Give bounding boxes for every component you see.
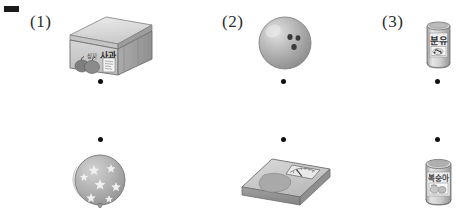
- connector-dot-bottom-3[interactable]: [435, 137, 440, 142]
- svg-text:상자: 상자: [87, 52, 97, 60]
- canned-food-tin-illustration: 복숭아: [419, 155, 459, 211]
- svg-text:복숭아: 복숭아: [428, 173, 449, 183]
- worksheet-canvas: (1): [0, 0, 476, 213]
- connector-dot-bottom-1[interactable]: [98, 137, 103, 142]
- powdered-milk-can-illustration: 분유: [420, 18, 458, 72]
- item-number-3: (3): [382, 12, 403, 32]
- item-number-1: (1): [30, 12, 51, 32]
- item-number-2: (2): [222, 12, 243, 32]
- connector-dot-item-2[interactable]: [281, 79, 286, 84]
- bathroom-scale-illustration: [238, 155, 342, 213]
- connector-dot-item-3[interactable]: [435, 79, 440, 84]
- apple-box-illustration: 상자 사과: [62, 13, 154, 77]
- connector-dot-item-1[interactable]: [98, 79, 103, 84]
- registration-mark: [4, 6, 19, 12]
- bowling-ball-illustration: [256, 14, 316, 72]
- connector-dot-bottom-2[interactable]: [281, 137, 286, 142]
- svg-text:분유: 분유: [430, 35, 448, 46]
- star-balloon-illustration: [64, 154, 138, 213]
